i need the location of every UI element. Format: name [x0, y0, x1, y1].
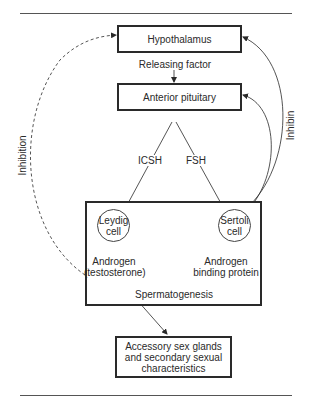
anterior-pituitary-label: Anterior pituitary [143, 92, 216, 103]
leydig-cell-node: Leydig cell [97, 209, 130, 242]
accessory-glands-box: Accessory sex glands and secondary sexua… [115, 336, 232, 378]
fsh-label: FSH [185, 155, 207, 166]
leydig-line1: Leydig [99, 215, 128, 226]
spermatogenesis-label: Spermatogenesis [133, 289, 215, 300]
androgen-binding-protein-label: Androgen binding protein [190, 256, 262, 278]
sertoli-line2: cell [227, 226, 242, 237]
abp-line2: binding protein [190, 267, 262, 278]
hypothalamus-box: Hypothalamus [117, 25, 242, 53]
androgen-line2: (testosterone) [84, 267, 144, 278]
androgen-line1: Androgen [84, 256, 144, 267]
hypothalamus-label: Hypothalamus [148, 34, 212, 45]
leydig-line2: cell [106, 226, 121, 237]
icsh-label: ICSH [138, 155, 162, 166]
inhibition-label: Inhibition [17, 126, 28, 186]
releasing-factor-label: Releasing factor [130, 59, 220, 70]
anterior-pituitary-box: Anterior pituitary [117, 83, 242, 111]
accessory-line1: Accessory sex glands [125, 341, 222, 352]
androgen-testosterone-label: Androgen (testosterone) [84, 256, 144, 278]
hormone-diagram: Hypothalamus Releasing factor Anterior p… [0, 0, 313, 399]
abp-line1: Androgen [190, 256, 262, 267]
inhibin-label: Inhibin [285, 106, 296, 146]
sertoli-line1: Sertoli [220, 215, 248, 226]
sertoli-cell-node: Sertoli cell [218, 209, 251, 242]
accessory-line3: characteristics [142, 363, 206, 374]
accessory-line2: and secondary sexual [125, 352, 222, 363]
